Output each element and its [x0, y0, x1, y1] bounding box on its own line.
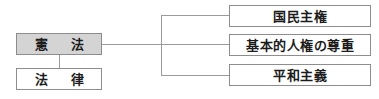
node-kokumin-shuken: 国民主権: [229, 5, 371, 27]
constitution-principles-diagram: 憲 法 法 律 国民主権 基本的人権の尊重 平和主義: [0, 0, 379, 99]
node-houritsu-label: 法 律: [30, 73, 89, 86]
node-kenpou: 憲 法: [16, 33, 102, 55]
connector-kenpou-stem: [101, 44, 162, 45]
node-kihonteki-jinken-no-soncho-label: 基本的人権の尊重: [246, 39, 354, 52]
connector-branch-top: [161, 15, 230, 16]
node-houritsu: 法 律: [16, 68, 102, 90]
connector-branch-bottom: [161, 75, 230, 76]
node-heiwa-shugi: 平和主義: [229, 64, 371, 86]
connector-branch-middle: [161, 44, 230, 45]
node-kokumin-shuken-label: 国民主権: [273, 10, 327, 23]
connector-bracket-spine: [161, 15, 162, 76]
connector-kenpou-to-houritsu: [59, 55, 60, 68]
node-heiwa-shugi-label: 平和主義: [273, 69, 327, 82]
node-kihonteki-jinken-no-soncho: 基本的人権の尊重: [229, 34, 371, 56]
node-kenpou-label: 憲 法: [30, 38, 89, 51]
